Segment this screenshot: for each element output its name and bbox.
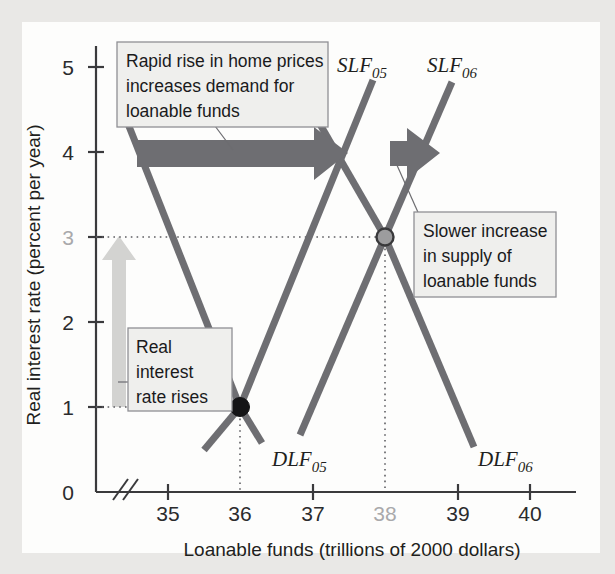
rate-rise-note: Real interest rate rises bbox=[128, 328, 232, 411]
curve-slf06 bbox=[300, 237, 385, 435]
supply-shift-note-line3: loanable funds bbox=[423, 271, 537, 291]
supply-shift-note-line2: in supply of bbox=[423, 246, 512, 266]
curve-label-slf06-sub: 06 bbox=[462, 65, 478, 81]
x-tick-label-36: 36 bbox=[228, 502, 251, 525]
svg-text:SLF06: SLF06 bbox=[427, 53, 478, 81]
curve-label-slf05-main: SLF bbox=[337, 53, 372, 77]
curve-label-slf06: SLF06 bbox=[427, 53, 478, 81]
x-axis-title: Loanable funds (trillions of 2000 dollar… bbox=[184, 539, 521, 560]
x-tick-label-38: 38 bbox=[373, 502, 396, 525]
x-tick-label-37: 37 bbox=[301, 502, 324, 525]
x-tick-label-35: 35 bbox=[156, 502, 179, 525]
loanable-funds-chart: 5 4 3 2 1 0 35 36 37 38 39 40 Real inter… bbox=[0, 0, 615, 574]
x-tick-labels: 35 36 37 38 39 40 bbox=[156, 502, 541, 525]
axis-break-icon bbox=[113, 479, 138, 500]
demand-shift-note: Rapid rise in home prices increases dema… bbox=[117, 42, 328, 127]
svg-text:SLF05: SLF05 bbox=[337, 53, 388, 81]
curve-label-dlf05: DLF05 bbox=[271, 447, 327, 475]
figure-container: 5 4 3 2 1 0 35 36 37 38 39 40 Real inter… bbox=[0, 0, 615, 574]
y-axis-title: Real interest rate (percent per year) bbox=[23, 125, 44, 426]
y-tick-label-4: 4 bbox=[62, 141, 74, 164]
x-tick-label-40: 40 bbox=[518, 502, 541, 525]
curve-label-slf06-main: SLF bbox=[427, 53, 462, 77]
svg-text:DLF05: DLF05 bbox=[271, 447, 327, 475]
demand-shift-note-line1: Rapid rise in home prices bbox=[126, 51, 324, 71]
supply-shift-note: Slower increase in supply of loanable fu… bbox=[414, 212, 556, 297]
rate-rise-note-line2: interest bbox=[136, 362, 194, 382]
supply-shift-note-line1: Slower increase bbox=[423, 221, 548, 241]
curve-label-slf05: SLF05 bbox=[337, 53, 388, 81]
x-tick-label-39: 39 bbox=[446, 502, 469, 525]
y-tick-label-1: 1 bbox=[62, 396, 74, 419]
curve-label-dlf05-sub: 05 bbox=[312, 459, 328, 475]
curve-slf05-top bbox=[240, 80, 373, 407]
y-tick-label-5: 5 bbox=[62, 56, 74, 79]
y-tick-labels: 5 4 3 2 1 0 bbox=[62, 56, 74, 504]
rate-rise-note-line3: rate rises bbox=[136, 387, 208, 407]
demand-shift-note-line3: loanable funds bbox=[126, 101, 240, 121]
y-tick-label-3: 3 bbox=[62, 226, 74, 249]
curve-label-slf05-sub: 05 bbox=[372, 65, 388, 81]
demand-shift-arrow bbox=[137, 127, 348, 180]
curve-label-dlf06-sub: 06 bbox=[518, 459, 534, 475]
curve-label-dlf05-main: DLF bbox=[271, 447, 312, 471]
equilibrium-2006-dot bbox=[377, 229, 394, 246]
svg-text:DLF06: DLF06 bbox=[477, 447, 533, 475]
y-tick-label-2: 2 bbox=[62, 311, 74, 334]
curve-label-dlf06-main: DLF bbox=[477, 447, 518, 471]
y-tick-label-0: 0 bbox=[62, 481, 74, 504]
equilibrium-2005-dot bbox=[231, 398, 250, 417]
curve-label-dlf06: DLF06 bbox=[477, 447, 533, 475]
demand-shift-note-line2: increases demand for bbox=[126, 76, 294, 96]
rate-rise-note-line1: Real bbox=[136, 337, 172, 357]
